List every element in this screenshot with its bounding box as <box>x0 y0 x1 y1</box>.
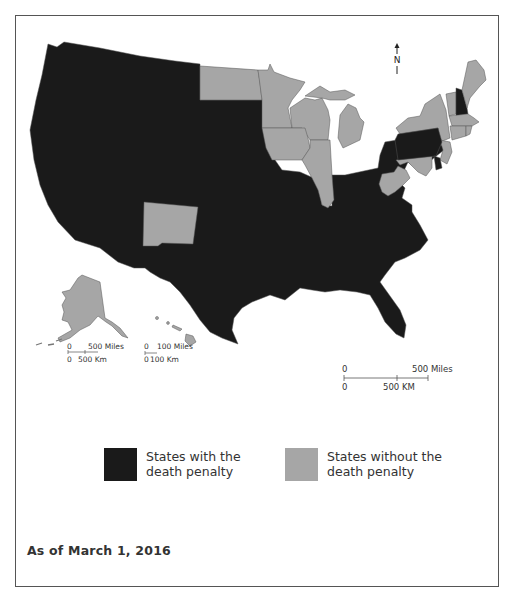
state-connecticut <box>450 126 466 140</box>
state-alaska <box>58 275 128 342</box>
state-new-mexico <box>143 202 198 246</box>
north-label: N <box>391 55 403 65</box>
state-north-dakota <box>200 66 262 100</box>
alaska-scale-km-zero: 0 <box>67 355 72 364</box>
state-michigan-lower <box>338 104 364 148</box>
mainland-scale-km-label: 500 KM <box>383 382 415 392</box>
legend-label-line: death penalty <box>327 464 467 479</box>
mainland-scale-miles-label: 500 Miles <box>412 364 453 374</box>
hawaii-island-kauai <box>156 317 159 320</box>
date-note: As of March 1, 2016 <box>27 543 171 558</box>
state-maine <box>462 60 486 108</box>
legend-label-line: death penalty <box>146 464 286 479</box>
alaska-scale-miles-zero: 0 <box>67 342 72 351</box>
hawaii-scale-km-zero: 0 <box>144 355 149 364</box>
hawaii-scale-miles-zero: 0 <box>144 342 149 351</box>
alaska-scale-km-label: 500 Km <box>78 355 107 364</box>
us-map <box>0 0 516 601</box>
state-rhode-island <box>466 126 472 136</box>
legend-label-line: States without the <box>327 449 467 464</box>
legend-label-without-death-penalty: States without the death penalty <box>327 449 467 479</box>
state-vermont <box>446 92 456 116</box>
hawaii-scale-km-label: 100 Km <box>150 355 179 364</box>
legend-swatch-with-death-penalty <box>104 448 137 481</box>
alaska-aleutians <box>36 339 62 345</box>
legend-label-with-death-penalty: States with the death penalty <box>146 449 286 479</box>
mainland-scale-miles-zero: 0 <box>342 364 347 374</box>
state-massachusetts <box>449 114 479 126</box>
state-michigan-upper <box>305 86 355 100</box>
hawaii-scale-miles-label: 100 Miles <box>157 342 193 351</box>
legend-swatch-without-death-penalty <box>285 448 318 481</box>
hawaii-island-oahu <box>167 322 170 325</box>
legend-label-line: States with the <box>146 449 286 464</box>
mainland-scale-km-zero: 0 <box>342 382 347 392</box>
alaska-scale-miles-label: 500 Miles <box>88 342 124 351</box>
hawaii-island-maui-group <box>172 325 182 331</box>
